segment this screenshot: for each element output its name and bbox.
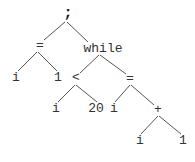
tree-node: ; (63, 7, 72, 21)
tree-edge (38, 52, 57, 71)
tree-node: while (83, 42, 122, 56)
tree-edge (58, 85, 75, 102)
tree-node: = (126, 72, 134, 86)
tree-node: i (136, 134, 144, 148)
tree-edge (44, 22, 65, 40)
tree-edges (0, 0, 195, 162)
tree-edge (76, 85, 97, 102)
tree-node: 1 (179, 134, 187, 148)
tree-node: < (72, 71, 80, 85)
tree-edge (115, 85, 130, 102)
tree-edge (159, 116, 181, 134)
tree-edge (100, 55, 126, 74)
tree-node: i (110, 102, 118, 116)
tree-node: 20 (88, 102, 104, 116)
tree-node: i (12, 71, 20, 85)
tree-node: = (36, 39, 44, 53)
tree-edge (18, 52, 37, 71)
tree-node: i (52, 102, 60, 116)
syntax-tree-diagram: ;=whilei1<=i20i+i1 (0, 0, 195, 162)
tree-edge (141, 116, 158, 134)
tree-node: 1 (54, 71, 62, 85)
tree-edge (67, 22, 88, 42)
tree-edge (80, 55, 99, 73)
tree-node: + (154, 103, 162, 117)
tree-edge (131, 85, 154, 105)
